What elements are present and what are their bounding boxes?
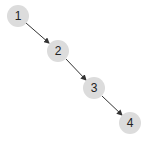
node-3: 3 — [83, 77, 105, 99]
edge-2-3 — [66, 59, 86, 80]
node-2: 2 — [47, 40, 69, 62]
diagram-canvas: 1 2 3 4 — [0, 0, 149, 141]
edge-1-2 — [26, 23, 49, 43]
node-label: 2 — [55, 44, 62, 58]
edge-3-4 — [102, 96, 122, 115]
node-1: 1 — [7, 5, 29, 27]
node-label: 3 — [91, 81, 98, 95]
node-label: 4 — [127, 116, 134, 130]
edges — [26, 23, 122, 115]
node-label: 1 — [15, 9, 22, 23]
node-4: 4 — [119, 112, 141, 134]
